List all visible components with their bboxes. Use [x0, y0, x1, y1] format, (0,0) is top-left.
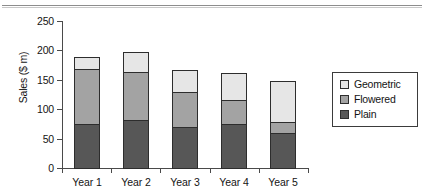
bar-segment-plain [74, 124, 100, 169]
bar-year-1[interactable] [74, 0, 100, 192]
y-tick-200 [57, 50, 62, 51]
legend-label-plain: Plain [354, 109, 376, 120]
legend-item-geometric[interactable]: Geometric [340, 78, 411, 91]
legend-swatch-geometric [340, 80, 349, 89]
legend-swatch-flowered [340, 95, 349, 104]
bar-year-4[interactable] [221, 0, 247, 192]
y-tick-label-150: 150 [14, 75, 54, 85]
bar-year-3[interactable] [172, 0, 198, 192]
chart-page: Sales ($ m) 050100150200250 Year 1Year 2… [0, 0, 424, 192]
bar-segment-plain [221, 124, 247, 169]
bar-year-2[interactable] [123, 0, 149, 192]
x-tick-1 [111, 168, 112, 173]
bar-segment-plain [172, 127, 198, 169]
y-axis-line [62, 21, 63, 169]
bar-segment-geometric [221, 73, 247, 102]
y-tick-250 [57, 21, 62, 22]
bar-segment-geometric [172, 70, 198, 92]
y-tick-150 [57, 80, 62, 81]
legend-label-flowered: Flowered [354, 94, 396, 105]
bar-year-5[interactable] [270, 0, 296, 192]
bar-segment-flowered [74, 69, 100, 125]
bar-segment-plain [270, 133, 296, 169]
bar-segment-geometric [74, 57, 100, 70]
x-tick-5 [308, 168, 309, 173]
legend-item-plain[interactable]: Plain [340, 108, 411, 121]
y-tick-label-0: 0 [14, 163, 54, 173]
y-tick-100 [57, 109, 62, 110]
legend-label-geometric: Geometric [354, 79, 401, 90]
bar-segment-flowered [270, 122, 296, 134]
y-tick-label-250: 250 [14, 16, 54, 26]
x-tick-3 [210, 168, 211, 173]
bar-segment-plain [123, 120, 149, 169]
bar-segment-flowered [172, 92, 198, 128]
y-tick-label-100: 100 [14, 104, 54, 114]
y-tick-label-200: 200 [14, 45, 54, 55]
x-tick-0 [62, 168, 63, 173]
legend-swatch-plain [340, 110, 349, 119]
chart-legend: Geometric Flowered Plain [332, 72, 418, 127]
legend-item-flowered[interactable]: Flowered [340, 93, 411, 106]
x-tick-2 [160, 168, 161, 173]
y-tick-label-50: 50 [14, 134, 54, 144]
bar-segment-geometric [270, 81, 296, 123]
bar-segment-flowered [123, 72, 149, 122]
y-tick-50 [57, 139, 62, 140]
x-tick-4 [259, 168, 260, 173]
bar-segment-geometric [123, 52, 149, 72]
bar-segment-flowered [221, 100, 247, 125]
